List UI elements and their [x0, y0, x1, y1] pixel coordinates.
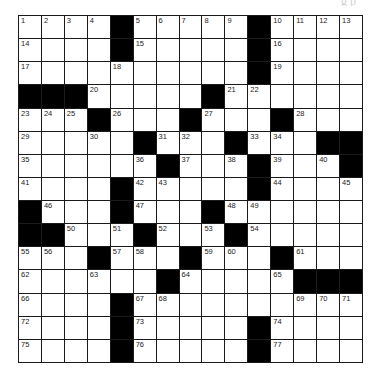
grid-cell[interactable]: 19 — [271, 62, 293, 84]
grid-cell[interactable] — [202, 294, 224, 316]
grid-cell[interactable]: 43 — [157, 178, 179, 200]
grid-cell[interactable] — [65, 39, 87, 61]
grid-cell[interactable]: 65 — [271, 270, 293, 292]
grid-cell[interactable] — [248, 109, 270, 131]
grid-cell[interactable]: 6 — [157, 16, 179, 38]
grid-cell[interactable]: 52 — [157, 224, 179, 246]
grid-cell[interactable] — [180, 224, 202, 246]
grid-cell[interactable] — [42, 132, 64, 154]
grid-cell[interactable] — [294, 85, 316, 107]
grid-cell[interactable] — [42, 317, 64, 339]
grid-cell[interactable] — [340, 247, 362, 269]
grid-cell[interactable] — [317, 317, 339, 339]
grid-cell[interactable]: 7 — [180, 16, 202, 38]
grid-cell[interactable] — [88, 201, 110, 223]
grid-cell[interactable]: 58 — [134, 247, 156, 269]
grid-cell[interactable] — [42, 155, 64, 177]
grid-cell[interactable]: 25 — [65, 109, 87, 131]
grid-cell[interactable] — [317, 201, 339, 223]
grid-cell[interactable]: 29 — [19, 132, 41, 154]
grid-cell[interactable] — [317, 85, 339, 107]
grid-cell[interactable] — [65, 317, 87, 339]
grid-cell[interactable]: 30 — [88, 132, 110, 154]
grid-cell[interactable] — [134, 270, 156, 292]
grid-cell[interactable]: 77 — [271, 340, 293, 362]
grid-cell[interactable]: 32 — [180, 132, 202, 154]
grid-cell[interactable]: 75 — [19, 340, 41, 362]
grid-cell[interactable]: 63 — [88, 270, 110, 292]
grid-cell[interactable] — [340, 224, 362, 246]
grid-cell[interactable] — [180, 340, 202, 362]
grid-cell[interactable] — [157, 85, 179, 107]
grid-cell[interactable] — [65, 270, 87, 292]
grid-cell[interactable]: 8 — [202, 16, 224, 38]
grid-cell[interactable] — [225, 340, 247, 362]
grid-cell[interactable]: 50 — [65, 224, 87, 246]
grid-cell[interactable]: 42 — [134, 178, 156, 200]
grid-cell[interactable] — [317, 39, 339, 61]
grid-cell[interactable] — [340, 39, 362, 61]
grid-cell[interactable] — [65, 340, 87, 362]
grid-cell[interactable] — [65, 132, 87, 154]
grid-cell[interactable]: 12 — [317, 16, 339, 38]
grid-cell[interactable]: 55 — [19, 247, 41, 269]
grid-cell[interactable] — [317, 224, 339, 246]
grid-cell[interactable]: 26 — [111, 109, 133, 131]
grid-cell[interactable] — [225, 62, 247, 84]
grid-cell[interactable]: 16 — [271, 39, 293, 61]
grid-cell[interactable] — [65, 294, 87, 316]
grid-cell[interactable]: 36 — [134, 155, 156, 177]
grid-cell[interactable]: 5 — [134, 16, 156, 38]
grid-cell[interactable]: 24 — [42, 109, 64, 131]
grid-cell[interactable]: 49 — [248, 201, 270, 223]
grid-cell[interactable]: 68 — [157, 294, 179, 316]
grid-cell[interactable] — [65, 247, 87, 269]
grid-cell[interactable] — [271, 224, 293, 246]
grid-cell[interactable]: 57 — [111, 247, 133, 269]
grid-cell[interactable] — [65, 178, 87, 200]
grid-cell[interactable]: 76 — [134, 340, 156, 362]
grid-cell[interactable] — [134, 62, 156, 84]
grid-cell[interactable]: 4 — [88, 16, 110, 38]
grid-cell[interactable]: 3 — [65, 16, 87, 38]
grid-cell[interactable]: 60 — [225, 247, 247, 269]
grid-cell[interactable] — [88, 62, 110, 84]
grid-cell[interactable]: 45 — [340, 178, 362, 200]
grid-cell[interactable] — [88, 294, 110, 316]
grid-cell[interactable] — [202, 155, 224, 177]
grid-cell[interactable] — [42, 294, 64, 316]
grid-cell[interactable]: 37 — [180, 155, 202, 177]
grid-cell[interactable] — [340, 85, 362, 107]
grid-cell[interactable] — [202, 62, 224, 84]
grid-cell[interactable] — [180, 178, 202, 200]
grid-cell[interactable]: 13 — [340, 16, 362, 38]
grid-cell[interactable] — [134, 109, 156, 131]
grid-cell[interactable] — [294, 201, 316, 223]
grid-cell[interactable]: 40 — [317, 155, 339, 177]
grid-cell[interactable] — [317, 340, 339, 362]
grid-cell[interactable]: 44 — [271, 178, 293, 200]
grid-cell[interactable]: 72 — [19, 317, 41, 339]
grid-cell[interactable] — [157, 109, 179, 131]
grid-cell[interactable]: 66 — [19, 294, 41, 316]
grid-cell[interactable]: 71 — [340, 294, 362, 316]
grid-cell[interactable] — [42, 270, 64, 292]
grid-cell[interactable]: 14 — [19, 39, 41, 61]
grid-cell[interactable]: 33 — [248, 132, 270, 154]
grid-cell[interactable] — [88, 224, 110, 246]
grid-cell[interactable]: 11 — [294, 16, 316, 38]
grid-cell[interactable] — [225, 178, 247, 200]
grid-cell[interactable] — [202, 132, 224, 154]
grid-cell[interactable] — [317, 109, 339, 131]
grid-cell[interactable] — [157, 201, 179, 223]
grid-cell[interactable]: 28 — [294, 109, 316, 131]
grid-cell[interactable] — [88, 317, 110, 339]
grid-cell[interactable] — [294, 340, 316, 362]
grid-cell[interactable] — [294, 39, 316, 61]
grid-cell[interactable]: 2 — [42, 16, 64, 38]
grid-cell[interactable] — [180, 317, 202, 339]
grid-cell[interactable] — [42, 62, 64, 84]
grid-cell[interactable] — [225, 317, 247, 339]
grid-cell[interactable] — [317, 178, 339, 200]
grid-cell[interactable]: 51 — [111, 224, 133, 246]
